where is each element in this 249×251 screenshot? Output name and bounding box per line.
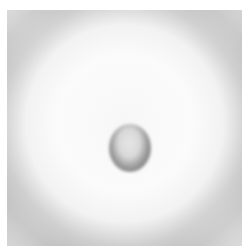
center-disk — [109, 124, 151, 172]
photograph — [7, 10, 242, 246]
